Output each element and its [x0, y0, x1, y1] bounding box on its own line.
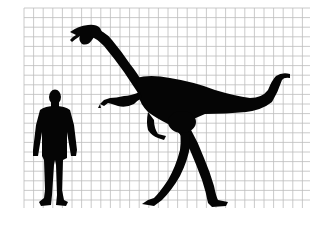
size-comparison-figure	[0, 0, 320, 226]
silhouettes-layer	[0, 0, 320, 226]
human-silhouette-icon	[33, 90, 77, 207]
theropod-silhouette-icon	[70, 25, 290, 207]
